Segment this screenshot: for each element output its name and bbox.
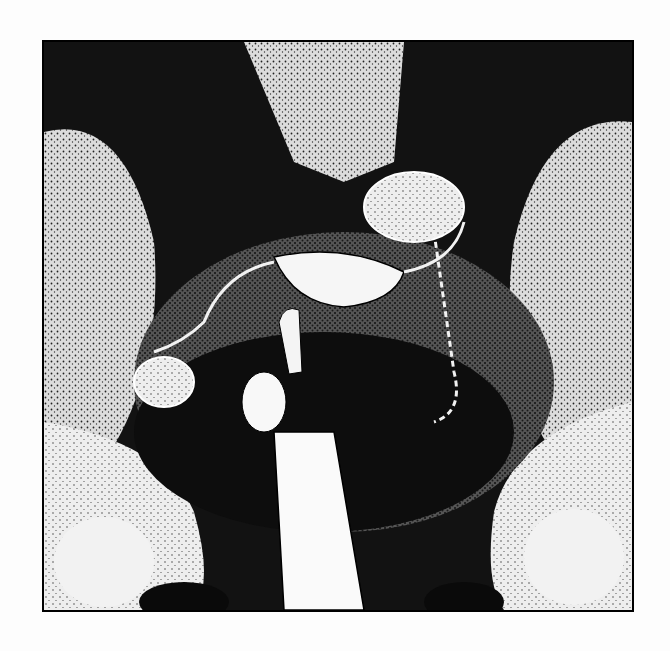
instrument-bulb-shape — [242, 372, 286, 432]
right-ovary-shape — [364, 172, 464, 242]
left-femoral-head-shape — [54, 517, 154, 607]
illustration-frame — [42, 40, 634, 612]
right-femoral-head-shape — [524, 509, 624, 605]
left-ovary-shape — [134, 357, 194, 407]
pelvic-anatomy-illustration — [44, 42, 632, 610]
